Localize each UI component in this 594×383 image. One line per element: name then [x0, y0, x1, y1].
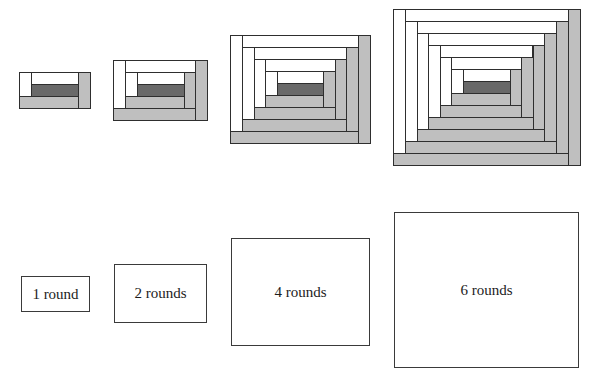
white-strip-left	[265, 71, 278, 96]
white-strip-top	[265, 59, 336, 72]
gray-strip-bottom	[230, 131, 359, 144]
white-strip-top	[125, 60, 197, 73]
label-box-4-rounds: 4 rounds	[231, 238, 370, 346]
label-box-1-round: 1 round	[21, 276, 90, 312]
white-strip-left	[393, 9, 406, 154]
gray-strip-right	[358, 35, 371, 144]
white-strip-top	[137, 72, 185, 85]
white-strip-top	[439, 45, 533, 58]
white-strip-top	[242, 35, 359, 48]
gray-strip-right	[78, 72, 91, 109]
white-strip-top	[405, 9, 569, 22]
white-strip-top	[253, 47, 347, 60]
gray-strip-bottom	[19, 96, 79, 109]
white-strip-left	[125, 72, 138, 97]
log-cabin-diagram: 1 round 2 rounds 4 rounds 6 rounds	[0, 0, 594, 383]
label-1-round: 1 round	[32, 286, 78, 303]
white-strip-top	[451, 57, 522, 70]
gray-strip-bottom	[113, 108, 196, 121]
white-strip-top	[276, 71, 324, 84]
label-box-2-rounds: 2 rounds	[114, 264, 207, 323]
white-strip-left	[428, 45, 441, 118]
gray-strip-bottom	[393, 153, 569, 166]
white-strip-top	[463, 69, 511, 82]
label-2-rounds: 2 rounds	[134, 285, 186, 302]
gray-strip-right	[195, 60, 208, 121]
white-strip-top	[428, 33, 546, 46]
white-strip-left	[113, 60, 126, 109]
white-strip-top	[416, 21, 557, 34]
label-4-rounds: 4 rounds	[274, 284, 326, 301]
white-strip-left	[19, 72, 32, 97]
label-6-rounds: 6 rounds	[460, 282, 512, 299]
white-strip-left	[230, 35, 243, 132]
white-strip-left	[405, 21, 418, 142]
white-strip-left	[242, 47, 255, 120]
white-strip-top	[31, 72, 79, 85]
label-box-6-rounds: 6 rounds	[394, 212, 579, 368]
white-strip-left	[451, 69, 464, 94]
gray-strip-right	[568, 9, 581, 166]
